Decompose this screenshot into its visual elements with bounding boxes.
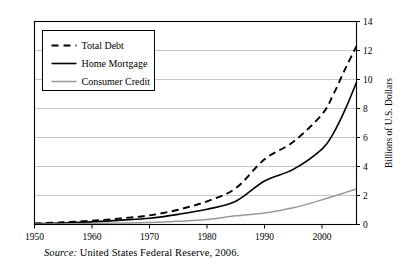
legend-label-total-debt: Total Debt [82,40,125,51]
y-axis-title: Billions of U.S. Dollars [384,78,394,168]
y-tick-label: 2 [363,191,368,201]
source-note: Source: United States Federal Reserve, 2… [44,247,239,258]
x-tick-label: 1970 [140,232,159,242]
y-tick-label: 14 [363,17,373,27]
x-tick-label: 1990 [255,232,274,242]
source-label: Source: [44,247,77,258]
legend-label-home-mortgage: Home Mortgage [82,58,148,69]
x-tick-label: 1980 [198,232,217,242]
series-line-home-mortgage [35,82,357,223]
y-tick-label: 4 [363,162,368,172]
source-text: United States Federal Reserve, 2006. [80,247,240,258]
y-tick-label: 10 [363,75,373,85]
line-chart: 02468101214195019601970198019902000Billi… [0,0,408,273]
y-tick-label: 12 [363,46,373,56]
x-tick-label: 1950 [25,232,44,242]
chart-figure: 02468101214195019601970198019902000Billi… [0,0,408,273]
y-tick-label: 8 [363,104,368,114]
series-line-consumer-credit [35,189,357,224]
y-tick-label: 0 [363,220,368,230]
x-tick-label: 1960 [83,232,102,242]
legend-label-consumer-credit: Consumer Credit [82,76,151,87]
y-tick-label: 6 [363,133,368,143]
x-tick-label: 2000 [313,232,332,242]
